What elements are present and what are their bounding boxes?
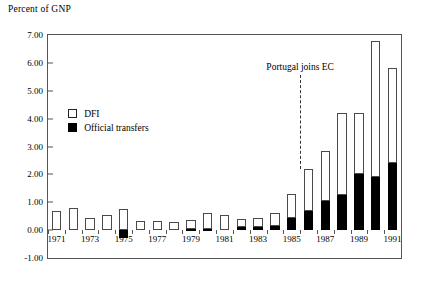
bar-segment-dfi xyxy=(119,209,128,230)
y-tick-label: 7.00 xyxy=(27,30,48,40)
bar-column xyxy=(388,35,397,258)
bar-column xyxy=(337,35,346,258)
legend-item-official-transfers: Official transfers xyxy=(68,123,148,133)
bar-segment-official-transfers xyxy=(186,229,195,231)
bar-column xyxy=(136,35,145,258)
bar-segment-official-transfers xyxy=(371,177,380,230)
x-tick-label: 1983 xyxy=(249,234,267,244)
bar-column xyxy=(186,35,195,258)
y-tick-label: 5.00 xyxy=(27,86,48,96)
bar-column xyxy=(253,35,262,258)
x-tick-label: 1979 xyxy=(182,234,200,244)
bar-segment-dfi xyxy=(287,194,296,218)
bar-segment-dfi xyxy=(203,213,212,228)
x-tick-label: 1987 xyxy=(316,234,334,244)
bar-segment-dfi xyxy=(102,215,111,230)
bar-segment-dfi xyxy=(69,208,78,230)
bar-segment-dfi xyxy=(270,213,279,226)
bar-column xyxy=(52,35,61,258)
chart-figure: Percent of GNP -1.000.001.002.003.004.00… xyxy=(0,0,424,291)
bar-column xyxy=(220,35,229,258)
bar-column xyxy=(69,35,78,258)
bar-segment-dfi xyxy=(321,151,330,201)
plot-area: -1.000.001.002.003.004.005.006.007.00 Po… xyxy=(47,34,402,259)
bar-segment-dfi xyxy=(253,218,262,227)
y-tick-label: 2.00 xyxy=(27,169,48,179)
x-tick-label: 1981 xyxy=(216,234,234,244)
event-marker-label: Portugal joins EC xyxy=(266,62,334,72)
axis-title-percent-of-gnp: Percent of GNP xyxy=(8,4,71,14)
bar-segment-dfi xyxy=(52,211,61,230)
event-marker-line xyxy=(300,75,301,168)
bar-segment-official-transfers xyxy=(304,211,313,231)
y-tick-label: 3.00 xyxy=(27,142,48,152)
bar-segment-dfi xyxy=(136,221,145,230)
x-tick-label: 1977 xyxy=(148,234,166,244)
x-tick-label: 1971 xyxy=(47,234,65,244)
bar-segment-dfi xyxy=(337,113,346,195)
bar-column xyxy=(102,35,111,258)
bar-column xyxy=(203,35,212,258)
bar-segment-dfi xyxy=(186,220,195,228)
bar-segment-official-transfers xyxy=(337,195,346,230)
legend-label-official-transfers: Official transfers xyxy=(84,123,148,133)
bar-column xyxy=(119,35,128,258)
x-tick-label: 1973 xyxy=(81,234,99,244)
bar-segment-dfi xyxy=(304,169,313,211)
x-tick-label: 1985 xyxy=(283,234,301,244)
y-tick-label: 4.00 xyxy=(27,114,48,124)
legend-swatch-filled-square-icon xyxy=(68,123,77,132)
bar-segment-official-transfers xyxy=(253,227,262,230)
bar-series-group xyxy=(48,35,401,258)
bar-segment-dfi xyxy=(388,68,397,163)
bar-column xyxy=(85,35,94,258)
bar-segment-official-transfers xyxy=(270,226,279,230)
x-tick-label: 1975 xyxy=(115,234,133,244)
bar-segment-official-transfers xyxy=(321,201,330,230)
bar-column xyxy=(371,35,380,258)
y-tick-label: 0.00 xyxy=(27,225,48,235)
bar-column xyxy=(237,35,246,258)
bar-segment-dfi xyxy=(85,218,94,231)
bar-segment-dfi xyxy=(220,215,229,230)
bar-segment-dfi xyxy=(354,113,363,174)
bar-column xyxy=(354,35,363,258)
bar-segment-dfi xyxy=(153,221,162,230)
bar-segment-dfi xyxy=(237,219,246,227)
chart-legend: DFI Official transfers xyxy=(68,109,148,137)
bar-segment-dfi xyxy=(371,41,380,178)
bar-segment-official-transfers xyxy=(203,229,212,231)
y-tick-label: 1.00 xyxy=(27,197,48,207)
legend-item-dfi: DFI xyxy=(68,109,148,119)
legend-label-dfi: DFI xyxy=(84,109,99,119)
bar-segment-official-transfers xyxy=(237,227,246,230)
x-tick-label: 1989 xyxy=(350,234,368,244)
y-tick-label: -1.00 xyxy=(24,253,48,263)
bar-segment-dfi xyxy=(169,222,178,230)
bar-segment-official-transfers xyxy=(388,163,397,230)
legend-swatch-open-square-icon xyxy=(68,109,77,118)
bar-segment-official-transfers xyxy=(354,174,363,230)
bar-column xyxy=(153,35,162,258)
y-tick-label: 6.00 xyxy=(27,58,48,68)
x-tick-label: 1991 xyxy=(384,234,402,244)
bar-segment-official-transfers xyxy=(287,218,296,231)
bar-column xyxy=(169,35,178,258)
